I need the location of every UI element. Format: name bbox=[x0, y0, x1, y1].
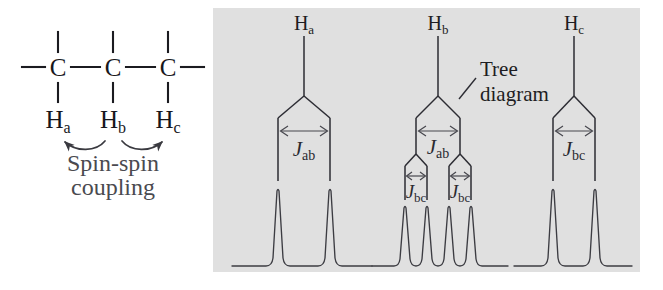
hydrogen-c-element: H bbox=[155, 106, 173, 133]
tree-hc-j-subscript: bc bbox=[572, 148, 585, 163]
hydrogen-c-subscript: c bbox=[173, 119, 180, 136]
caption-line-1: Spin-spin bbox=[67, 150, 159, 176]
caption-line-2: coupling bbox=[71, 174, 155, 200]
tree-diagram-label-line-1: Tree bbox=[480, 57, 518, 81]
tree-hb-subscript: b bbox=[442, 22, 449, 37]
figure-svg: C C C Ha Hb Hc Spin-spin coupling bbox=[0, 0, 663, 290]
tree-ha-subscript: a bbox=[308, 22, 314, 37]
tree-diagram-label-line-2: diagram bbox=[480, 82, 549, 106]
hydrogen-b-subscript: b bbox=[118, 119, 126, 136]
carbon-label-2: C bbox=[105, 54, 122, 81]
tree-ha-j-subscript: ab bbox=[302, 148, 315, 163]
hydrogen-a-element: H bbox=[45, 106, 63, 133]
tree-hb-jbc2-subscript: bc bbox=[458, 190, 471, 205]
hydrogen-a-subscript: a bbox=[63, 119, 70, 136]
tree-hc-subscript: c bbox=[578, 22, 584, 37]
tree-hb-jab-subscript: ab bbox=[436, 146, 449, 161]
carbon-label-3: C bbox=[160, 54, 177, 81]
tree-hc-element: H bbox=[564, 12, 578, 34]
hydrogen-b-element: H bbox=[100, 106, 118, 133]
figure-root: C C C Ha Hb Hc Spin-spin coupling bbox=[0, 0, 663, 290]
tree-hb-element: H bbox=[428, 12, 442, 34]
tree-hb-jbc1-subscript: bc bbox=[414, 190, 427, 205]
carbon-label-1: C bbox=[50, 54, 67, 81]
tree-ha-element: H bbox=[294, 12, 308, 34]
